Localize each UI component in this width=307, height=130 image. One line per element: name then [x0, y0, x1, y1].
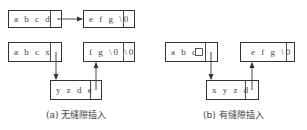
string-insertion-diagram: a b c d e f g \0 a b c x f g \0 \0 y z d…	[0, 0, 307, 130]
node-abcd-text: a b c d	[14, 14, 52, 24]
caption-b: (b) 有缝隙插入	[203, 109, 264, 120]
node-efg-b: e f g \0	[241, 43, 295, 62]
node-efg-text: e f g \0	[89, 14, 130, 24]
node-yzde-text: y z d e	[56, 85, 94, 95]
node-abcd: a b c d	[9, 11, 62, 28]
caption-a: (a) 无缝隙插入	[46, 109, 106, 120]
node-efg-b-text: e f g \0	[251, 47, 292, 57]
node-abcx: a b c x	[9, 43, 62, 62]
node-abc-text: a b c	[171, 47, 198, 57]
node-efg: e f g \0	[84, 11, 135, 28]
node-fg00: f g \0 \0	[84, 43, 136, 62]
node-fg00-text: f g \0 \0	[89, 47, 135, 57]
gap-square-icon	[196, 49, 203, 56]
node-xyzd-text: x y z d	[212, 85, 250, 95]
node-abcx-text: a b c x	[14, 47, 52, 57]
node-abc-gap: a b c	[166, 43, 218, 62]
node-xyzd: x y z d	[207, 81, 259, 100]
node-yzde: y z d e	[51, 81, 102, 100]
